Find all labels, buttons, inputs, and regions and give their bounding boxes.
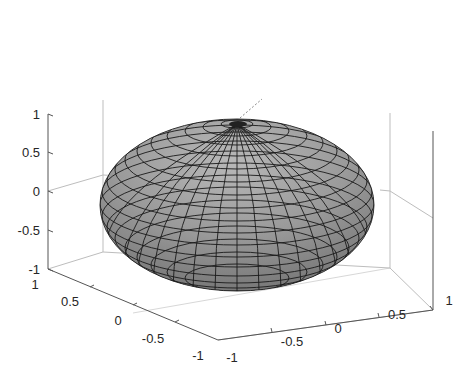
figure: 1 0.5 0 -0.5 -1 1 0.5 0 -0.5 -1 -1 -0.5 … xyxy=(0,0,474,391)
y-tick-label: -0.5 xyxy=(142,331,164,346)
hidden-edge xyxy=(240,99,262,118)
y-tick-label: 1 xyxy=(31,277,38,292)
z-tick-label: 1 xyxy=(33,107,40,122)
z-tick-label: -0.5 xyxy=(18,223,40,238)
x-tick-label: -0.5 xyxy=(281,334,303,349)
z-tick-label: -1 xyxy=(28,262,40,277)
x-tick-label: 1 xyxy=(445,293,452,308)
z-tick-label: 0.5 xyxy=(22,145,40,160)
z-tick-label: 0 xyxy=(33,184,40,199)
x-tick-label: -1 xyxy=(226,350,238,365)
x-axis-ticks: -1 -0.5 0 0.5 1 xyxy=(226,293,452,365)
y-tick-label: 0.5 xyxy=(61,294,79,309)
z-axis-ticks: 1 0.5 0 -0.5 -1 xyxy=(18,107,40,277)
y-tick-label: -1 xyxy=(192,348,204,363)
y-tick-label: 0 xyxy=(114,313,121,328)
ellipsoid-surface xyxy=(100,116,374,292)
x-tick-label: 0 xyxy=(334,321,341,336)
x-tick-label: 0.5 xyxy=(388,307,406,322)
